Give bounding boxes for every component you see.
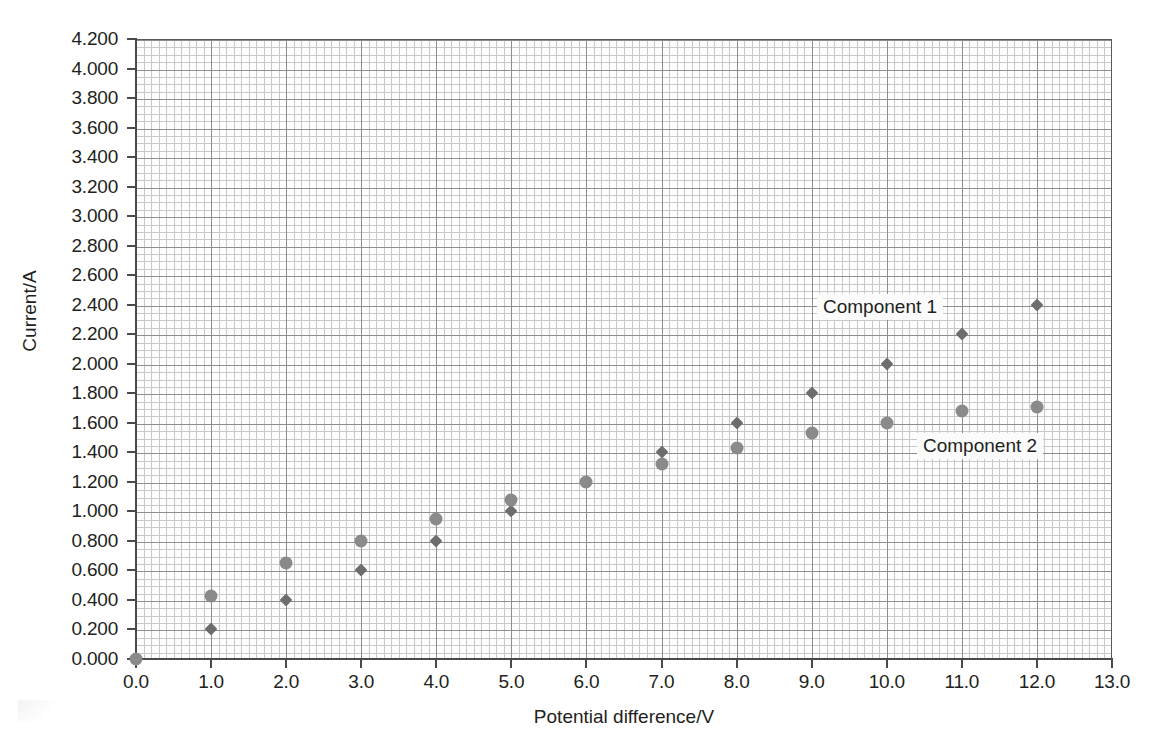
y-tick-label: 2.800: [0, 236, 118, 255]
y-tick-label: 4.200: [0, 29, 118, 48]
y-tick-mark: [127, 38, 136, 40]
x-axis-title: Potential difference/V: [136, 706, 1112, 728]
y-axis-line: [135, 38, 137, 660]
y-tick-mark: [127, 599, 136, 601]
y-tick-label: 3.000: [0, 206, 118, 225]
y-tick-mark: [127, 333, 136, 335]
x-tick-label: 2.0: [251, 672, 321, 691]
y-tick-label: 0.800: [0, 531, 118, 550]
y-tick-label: 2.000: [0, 354, 118, 373]
data-point: [355, 534, 368, 547]
y-tick-label: 4.000: [0, 59, 118, 78]
y-tick-mark: [127, 245, 136, 247]
data-point: [730, 441, 743, 454]
y-tick-mark: [127, 540, 136, 542]
x-tick-mark: [1036, 659, 1038, 668]
x-tick-label: 0.0: [101, 672, 171, 691]
x-tick-label: 10.0: [852, 672, 922, 691]
y-tick-mark: [127, 97, 136, 99]
y-tick-mark: [127, 186, 136, 188]
x-tick-mark: [886, 659, 888, 668]
y-tick-label: 1.000: [0, 501, 118, 520]
y-tick-label: 2.400: [0, 295, 118, 314]
data-point: [430, 512, 443, 525]
x-tick-label: 11.0: [927, 672, 997, 691]
y-tick-mark: [127, 215, 136, 217]
y-tick-label: 0.200: [0, 619, 118, 638]
y-tick-mark: [127, 569, 136, 571]
x-tick-label: 4.0: [401, 672, 471, 691]
y-tick-label: 3.200: [0, 177, 118, 196]
data-point: [580, 475, 593, 488]
y-tick-mark: [127, 451, 136, 453]
x-tick-mark: [510, 659, 512, 668]
y-tick-label: 1.400: [0, 442, 118, 461]
y-tick-mark: [127, 304, 136, 306]
x-tick-mark: [585, 659, 587, 668]
y-tick-label: 3.600: [0, 118, 118, 137]
x-tick-mark: [661, 659, 663, 668]
x-tick-label: 13.0: [1077, 672, 1147, 691]
data-point: [880, 416, 893, 429]
series-annotation-component-1: Component 1: [817, 294, 943, 320]
x-tick-label: 8.0: [702, 672, 772, 691]
x-tick-mark: [360, 659, 362, 668]
data-point: [280, 557, 293, 570]
y-tick-mark: [127, 68, 136, 70]
data-point: [505, 493, 518, 506]
y-tick-mark: [127, 392, 136, 394]
y-tick-mark: [127, 156, 136, 158]
y-tick-label: 3.400: [0, 147, 118, 166]
data-point: [955, 405, 968, 418]
x-tick-label: 7.0: [627, 672, 697, 691]
y-tick-label: 1.600: [0, 413, 118, 432]
x-tick-mark: [961, 659, 963, 668]
series-annotation-component-2: Component 2: [917, 433, 1043, 459]
y-tick-mark: [127, 510, 136, 512]
data-point: [805, 427, 818, 440]
y-tick-label: 2.600: [0, 265, 118, 284]
x-axis-line: [135, 658, 1113, 660]
data-point: [130, 653, 143, 666]
x-tick-mark: [811, 659, 813, 668]
page-artifact: [18, 700, 58, 722]
x-tick-mark: [285, 659, 287, 668]
x-tick-label: 5.0: [476, 672, 546, 691]
y-tick-label: 3.800: [0, 88, 118, 107]
x-tick-label: 9.0: [777, 672, 847, 691]
y-tick-label: 2.200: [0, 324, 118, 343]
data-point: [655, 458, 668, 471]
y-tick-label: 1.800: [0, 383, 118, 402]
x-tick-mark: [435, 659, 437, 668]
y-tick-mark: [127, 481, 136, 483]
y-tick-label: 0.400: [0, 590, 118, 609]
data-point: [205, 589, 218, 602]
x-tick-mark: [210, 659, 212, 668]
x-tick-mark: [736, 659, 738, 668]
y-tick-label: 1.200: [0, 472, 118, 491]
scatter-chart: 0.0000.2000.4000.6000.8001.0001.2001.400…: [0, 0, 1166, 751]
x-tick-label: 6.0: [551, 672, 621, 691]
y-tick-label: 0.000: [0, 649, 118, 668]
y-axis-title: Current/A: [19, 221, 41, 401]
y-tick-mark: [127, 422, 136, 424]
x-tick-label: 1.0: [176, 672, 246, 691]
y-tick-mark: [127, 363, 136, 365]
x-tick-label: 12.0: [1002, 672, 1072, 691]
data-point: [1030, 400, 1043, 413]
y-tick-mark: [127, 628, 136, 630]
y-tick-mark: [127, 274, 136, 276]
x-tick-mark: [1111, 659, 1113, 668]
x-tick-label: 3.0: [326, 672, 396, 691]
y-tick-label: 0.600: [0, 560, 118, 579]
y-tick-mark: [127, 127, 136, 129]
